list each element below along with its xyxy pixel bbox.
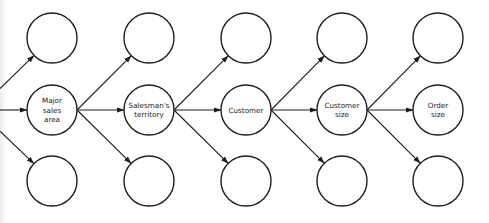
node-label: sales bbox=[43, 106, 62, 115]
node-c1-bot bbox=[27, 156, 77, 206]
node-label: Customer bbox=[229, 106, 264, 115]
arrow-incoming-bot bbox=[0, 131, 34, 164]
arrow-c2-mid-to-c3-top bbox=[174, 56, 228, 110]
node-c2-top bbox=[124, 13, 174, 63]
arrow-incoming-top bbox=[0, 55, 34, 88]
arrow-c3-mid-to-c4-bot bbox=[271, 110, 324, 163]
node-c1-mid: Majorsalesarea bbox=[27, 85, 77, 135]
node-circle bbox=[221, 13, 271, 63]
arrow-c1-mid-to-c2-top bbox=[77, 56, 131, 110]
node-circle bbox=[124, 156, 174, 206]
node-label: Order bbox=[428, 101, 448, 110]
node-circle bbox=[317, 156, 367, 206]
node-c2-bot bbox=[124, 156, 174, 206]
node-circle bbox=[124, 13, 174, 63]
node-c2-mid: Salesman'sterritory bbox=[124, 85, 174, 135]
node-label: territory bbox=[134, 110, 164, 119]
node-circle bbox=[413, 156, 463, 206]
node-c1-top bbox=[27, 13, 77, 63]
node-c5-mid: Ordersize bbox=[413, 85, 463, 135]
arrow-c1-mid-to-c2-bot bbox=[77, 110, 131, 163]
arrow-c3-mid-to-c4-top bbox=[271, 56, 324, 110]
node-label: Salesman's bbox=[129, 101, 170, 110]
node-c5-bot bbox=[413, 156, 463, 206]
sales-breakdown-diagram: MajorsalesareaSalesman'sterritoryCustome… bbox=[0, 0, 489, 223]
arrow-c4-mid-to-c5-bot bbox=[367, 110, 420, 163]
node-circle bbox=[413, 13, 463, 63]
node-c4-mid: Customersize bbox=[317, 85, 367, 135]
arrow-c4-mid-to-c5-top bbox=[367, 56, 420, 110]
node-c3-top bbox=[221, 13, 271, 63]
node-circle bbox=[27, 13, 77, 63]
node-c3-bot bbox=[221, 156, 271, 206]
node-c4-bot bbox=[317, 156, 367, 206]
node-label: Customer bbox=[325, 101, 360, 110]
node-c4-top bbox=[317, 13, 367, 63]
node-label: size bbox=[431, 110, 446, 119]
node-circle bbox=[317, 13, 367, 63]
arrow-c2-mid-to-c3-bot bbox=[174, 110, 228, 163]
node-circle bbox=[221, 156, 271, 206]
node-label: Major bbox=[42, 96, 62, 105]
node-label: area bbox=[44, 115, 60, 124]
node-label: size bbox=[335, 110, 350, 119]
node-c3-mid: Customer bbox=[221, 85, 271, 135]
node-circle bbox=[27, 156, 77, 206]
node-c5-top bbox=[413, 13, 463, 63]
